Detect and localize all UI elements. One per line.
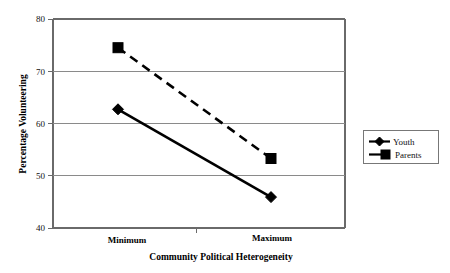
y-tick-label-60: 60 xyxy=(36,119,46,129)
y-tick-label-40: 40 xyxy=(36,223,46,233)
series-youth-segment xyxy=(118,109,271,197)
y-axis-ticks xyxy=(48,19,53,228)
y-tick-label-50: 50 xyxy=(36,171,46,181)
data-point-youth-minimum xyxy=(113,104,124,115)
chart-legend: Youth Parents xyxy=(363,130,438,163)
line-chart: 80 70 60 50 40 Percentage Volunteering M… xyxy=(0,0,450,273)
legend-label-youth: Youth xyxy=(393,137,415,147)
x-tick-label-maximum: Maximum xyxy=(252,233,292,243)
series-parents xyxy=(113,43,276,164)
y-tick-label-70: 70 xyxy=(36,67,46,77)
y-tick-label-80: 80 xyxy=(36,14,46,24)
chart-figure: 80 70 60 50 40 Percentage Volunteering M… xyxy=(0,0,450,273)
legend-label-parents: Parents xyxy=(395,150,422,160)
series-parents-segment xyxy=(118,48,271,159)
series-youth xyxy=(113,104,277,203)
y-axis-title: Percentage Volunteering xyxy=(18,74,28,174)
legend-marker-square-icon xyxy=(381,150,390,159)
gridlines xyxy=(53,71,345,176)
x-tick-label-minimum: Minimum xyxy=(108,235,147,245)
data-point-parents-minimum xyxy=(113,43,123,53)
x-axis-title: Community Political Heterogeneity xyxy=(149,252,293,262)
data-point-youth-maximum xyxy=(266,192,277,203)
data-point-parents-maximum xyxy=(266,154,276,164)
